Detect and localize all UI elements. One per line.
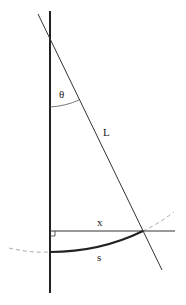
length-label-l: L xyxy=(103,126,110,138)
pendulum-string xyxy=(38,14,162,270)
horizontal-label-x: x xyxy=(97,216,103,228)
dashed-arc-left xyxy=(9,248,50,252)
arc-path-s xyxy=(50,231,143,252)
angle-label-theta: θ xyxy=(59,88,64,100)
pendulum-diagram: θ L x s xyxy=(0,0,186,305)
dashed-arc-right xyxy=(143,212,174,231)
angle-arc-theta xyxy=(50,100,79,107)
arc-label-s: s xyxy=(97,251,101,263)
